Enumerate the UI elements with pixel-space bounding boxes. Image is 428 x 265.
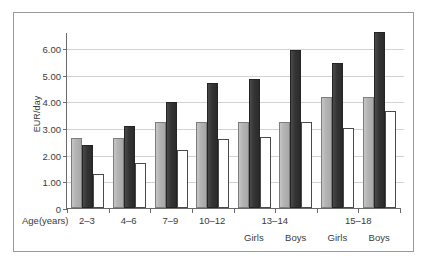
x-axis-label: 7–9 bbox=[150, 215, 192, 229]
x-axis-ticks bbox=[67, 208, 400, 213]
bar-group bbox=[192, 33, 234, 208]
bar-series-dark bbox=[124, 126, 135, 208]
x-axis-sublabel-empty bbox=[108, 232, 150, 246]
bar-group bbox=[358, 33, 400, 208]
bar-group bbox=[150, 33, 192, 208]
bar-series-white bbox=[93, 174, 104, 208]
bar-group bbox=[317, 33, 359, 208]
bar-series-gray bbox=[196, 122, 207, 208]
bar-series-dark bbox=[249, 79, 260, 208]
x-tick-mark bbox=[317, 208, 318, 213]
x-tick-mark bbox=[234, 208, 235, 213]
bar-series-gray bbox=[363, 97, 374, 208]
bar-series-gray bbox=[279, 122, 290, 208]
bar-groups bbox=[67, 33, 400, 208]
bar-series-white bbox=[301, 122, 312, 208]
x-axis-label: 2–3 bbox=[66, 215, 108, 229]
bar-series-white bbox=[260, 137, 271, 208]
bar-group bbox=[234, 33, 276, 208]
bar-series-gray bbox=[71, 138, 82, 208]
plot-area: 01.002.003.004.005.006.00 bbox=[66, 33, 400, 209]
bar-group bbox=[67, 33, 109, 208]
x-tick-mark bbox=[358, 208, 359, 213]
bar-series-white bbox=[218, 139, 229, 208]
x-axis-title: Age(years) bbox=[22, 215, 68, 226]
x-axis-sublabel: Boys bbox=[275, 232, 317, 246]
y-tick-label: 4.00 bbox=[43, 97, 62, 108]
y-tick-label: 2.00 bbox=[43, 150, 62, 161]
x-axis-sublabel-empty bbox=[191, 232, 233, 246]
bar-series-gray bbox=[113, 138, 124, 208]
plot-wrapper: 01.002.003.004.005.006.00 bbox=[66, 33, 400, 209]
chart-frame: EUR/day Age(years) 01.002.003.004.005.00… bbox=[13, 12, 414, 252]
bar-group bbox=[275, 33, 317, 208]
x-axis-label: 13–14 bbox=[233, 215, 317, 229]
y-tick-label: 0 bbox=[56, 204, 61, 215]
bar-series-dark bbox=[166, 102, 177, 208]
bar-series-white bbox=[135, 163, 146, 208]
bar-series-dark bbox=[82, 145, 93, 208]
x-axis-label: 10–12 bbox=[191, 215, 233, 229]
x-axis-sublabel: Girls bbox=[233, 232, 275, 246]
bar-series-dark bbox=[332, 63, 343, 208]
bar-series-dark bbox=[290, 50, 301, 208]
y-tick-label: 1.00 bbox=[43, 177, 62, 188]
x-axis-labels-row1: 2–34–67–910–1213–1415–18 bbox=[66, 215, 400, 229]
bar-group bbox=[109, 33, 151, 208]
x-axis-sublabel-empty bbox=[150, 232, 192, 246]
bar-series-dark bbox=[374, 32, 385, 208]
y-tick-label: 3.00 bbox=[43, 124, 62, 135]
bar-series-gray bbox=[155, 122, 166, 208]
y-axis-title: EUR/day bbox=[32, 69, 42, 159]
bar-series-white bbox=[385, 111, 396, 208]
x-tick-mark bbox=[150, 208, 151, 213]
x-axis-label: 4–6 bbox=[108, 215, 150, 229]
x-tick-mark bbox=[400, 208, 401, 213]
bar-series-white bbox=[177, 150, 188, 208]
x-axis-sublabel: Girls bbox=[317, 232, 359, 246]
x-axis-label: 15–18 bbox=[317, 215, 401, 229]
y-tick-label: 5.00 bbox=[43, 70, 62, 81]
x-tick-mark bbox=[67, 208, 68, 213]
x-axis-sublabel: Boys bbox=[358, 232, 400, 246]
x-tick-mark bbox=[192, 208, 193, 213]
bar-series-dark bbox=[207, 83, 218, 208]
x-tick-mark bbox=[109, 208, 110, 213]
x-tick-mark bbox=[275, 208, 276, 213]
x-axis-labels-row2: GirlsBoysGirlsBoys bbox=[66, 232, 400, 246]
bar-series-gray bbox=[321, 97, 332, 208]
bar-series-gray bbox=[238, 122, 249, 208]
bar-series-white bbox=[343, 128, 354, 208]
x-axis-sublabel-empty bbox=[66, 232, 108, 246]
y-tick-label: 6.00 bbox=[43, 44, 62, 55]
